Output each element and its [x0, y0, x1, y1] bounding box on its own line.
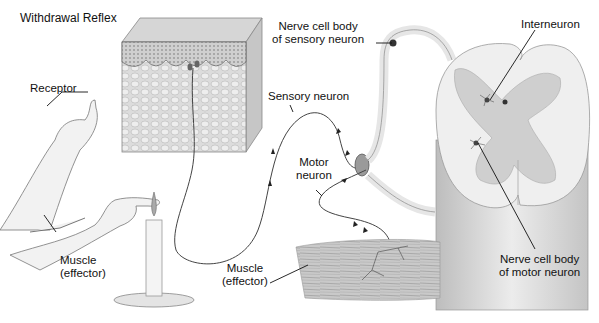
- label-sensory-neuron: Sensory neuron: [268, 90, 349, 103]
- label-line: Nerve cell body: [272, 20, 364, 33]
- label-line: Muscle: [222, 262, 268, 275]
- label-line: neuron: [296, 169, 332, 182]
- label-line: of motor neuron: [499, 266, 580, 279]
- interneuron-cell-body: [485, 98, 490, 103]
- label-muscle-effector-left: Muscle (effector): [60, 254, 106, 280]
- label-line: (effector): [222, 275, 268, 288]
- label-sensory-cell-body: Nerve cell body of sensory neuron: [272, 20, 364, 46]
- diagram-title: Withdrawal Reflex: [20, 12, 117, 25]
- flame-icon: [152, 192, 157, 216]
- label-line: Muscle: [60, 254, 106, 267]
- central-canal: [503, 100, 508, 105]
- label-motor-cell-body: Nerve cell body of motor neuron: [499, 253, 580, 279]
- muscle-fibers: [296, 239, 440, 300]
- label-interneuron: Interneuron: [521, 18, 580, 31]
- label-line: (effector): [60, 267, 106, 280]
- motor-cell-body: [474, 141, 479, 146]
- label-receptor: Receptor: [30, 82, 77, 95]
- label-line: Motor: [296, 156, 332, 169]
- label-muscle-effector-center: Muscle (effector): [222, 262, 268, 288]
- label-line: of sensory neuron: [272, 33, 364, 46]
- receptor-ending: [188, 64, 193, 71]
- label-motor-neuron: Motor neuron: [296, 156, 332, 182]
- motor-direction-arrows: [341, 178, 368, 233]
- label-line: Nerve cell body: [499, 253, 580, 266]
